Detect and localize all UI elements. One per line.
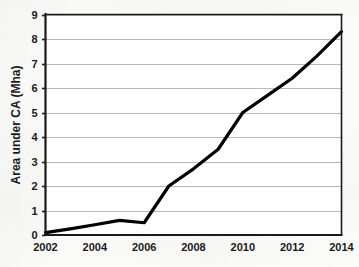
y-axis-tick-labels: 0123456789 — [31, 9, 38, 242]
x-tick-label-2010: 2010 — [231, 241, 255, 253]
x-tick-label-2012: 2012 — [280, 241, 304, 253]
chart-figure: 0123456789 2002200420062008201020122014 … — [0, 0, 359, 267]
y-tick-label-6: 6 — [31, 82, 37, 94]
x-tick-label-2004: 2004 — [83, 241, 108, 253]
y-tick-label-8: 8 — [31, 33, 37, 45]
y-tick-label-3: 3 — [31, 156, 37, 168]
x-axis-tick-labels: 2002200420062008201020122014 — [33, 241, 354, 253]
x-tick-label-2006: 2006 — [132, 241, 156, 253]
y-axis-title: Area under CA (Mha) — [9, 66, 23, 185]
y-tick-label-4: 4 — [31, 131, 38, 143]
y-tick-label-9: 9 — [31, 9, 37, 21]
y-tick-label-7: 7 — [31, 58, 37, 70]
x-tick-label-2014: 2014 — [329, 241, 354, 253]
x-tick-label-2002: 2002 — [33, 241, 57, 253]
plot-background — [45, 14, 342, 235]
y-tick-label-5: 5 — [31, 107, 37, 119]
x-tick-label-2008: 2008 — [181, 241, 205, 253]
y-tick-label-2: 2 — [31, 180, 37, 192]
line-chart: 0123456789 2002200420062008201020122014 … — [0, 0, 359, 267]
y-tick-label-0: 0 — [31, 229, 37, 241]
y-tick-label-1: 1 — [31, 205, 37, 217]
